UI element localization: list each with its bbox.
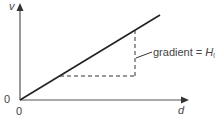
- x-axis-label: d: [178, 105, 184, 116]
- gradient-annotation: gradient = H0: [153, 47, 215, 59]
- y-axis-label: v: [9, 1, 15, 12]
- gradient-text: gradient =: [153, 46, 205, 58]
- data-line: [20, 15, 160, 100]
- gradient-subscript: 0: [213, 52, 215, 59]
- y-origin-label: 0: [4, 94, 10, 105]
- annotation-leader: [136, 52, 152, 58]
- x-origin-label: 0: [16, 106, 22, 117]
- x-axis-arrow-icon: [181, 97, 189, 104]
- y-axis-arrow-icon: [17, 3, 24, 11]
